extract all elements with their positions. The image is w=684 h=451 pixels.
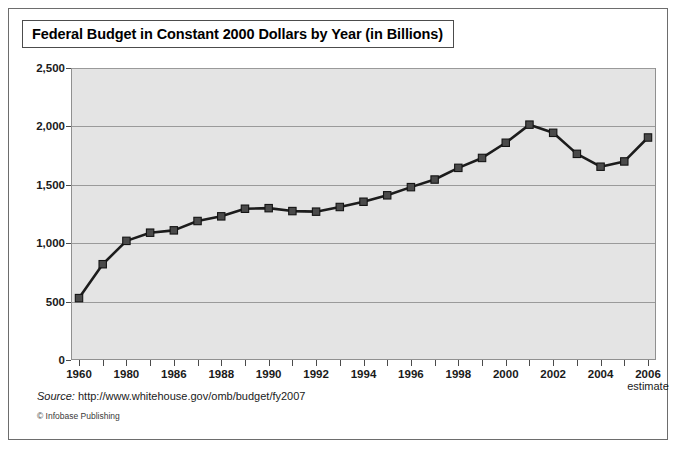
data-point-marker	[241, 205, 248, 212]
data-point-marker	[99, 261, 106, 268]
data-point-marker	[502, 139, 509, 146]
data-point-marker	[146, 229, 153, 236]
data-point-marker	[312, 208, 319, 215]
data-point-marker	[289, 207, 296, 214]
x-axis-estimate-note: estimate	[627, 380, 669, 392]
y-axis-tick-mark	[66, 243, 71, 244]
data-point-marker	[455, 164, 462, 171]
x-axis-tick-mark	[79, 360, 80, 366]
data-point-marker	[621, 158, 628, 165]
y-axis-tick-label: 1,000	[36, 237, 65, 249]
x-axis-tick-label: 2002	[540, 368, 566, 380]
x-axis-tick-mark	[458, 360, 459, 366]
x-axis-tick-mark	[364, 360, 365, 366]
x-axis-tick-mark	[126, 360, 127, 366]
line-series	[71, 68, 656, 360]
x-axis-tick-mark	[601, 360, 602, 366]
data-point-marker	[407, 183, 414, 190]
x-axis-tick-mark	[411, 360, 412, 366]
x-axis-tick-mark	[340, 360, 341, 366]
data-point-marker	[218, 213, 225, 220]
y-axis-tick-label: 2,500	[36, 62, 65, 74]
x-axis-tick-mark	[269, 360, 270, 366]
x-axis-tick-mark	[435, 360, 436, 366]
x-axis-tick-mark	[150, 360, 151, 366]
y-axis-tick-label: 2,000	[36, 120, 65, 132]
y-axis-tick-label: 500	[46, 296, 65, 308]
x-axis-tick-label: 1994	[351, 368, 377, 380]
x-axis-tick-mark	[174, 360, 175, 366]
x-axis-tick-mark	[292, 360, 293, 366]
data-point-marker	[644, 134, 651, 141]
data-point-marker	[573, 150, 580, 157]
x-axis-tick-mark	[506, 360, 507, 366]
copyright-note: © Infobase Publishing	[37, 411, 120, 421]
x-axis-tick-mark	[316, 360, 317, 366]
data-point-marker	[170, 227, 177, 234]
x-axis-tick-mark	[482, 360, 483, 366]
plot-wrapper: 05001,0001,5002,0002,5001960198019861988…	[9, 9, 669, 441]
source-label: Source:	[37, 390, 75, 402]
x-axis-tick-mark	[577, 360, 578, 366]
x-axis-tick-mark	[553, 360, 554, 366]
data-point-marker	[75, 294, 82, 301]
y-axis-tick-label: 0	[59, 354, 65, 366]
x-axis-tick-mark	[221, 360, 222, 366]
y-axis-tick-mark	[66, 302, 71, 303]
y-axis-tick-mark	[66, 185, 71, 186]
x-axis-tick-label: 1990	[256, 368, 282, 380]
x-axis-tick-label: 2004	[588, 368, 614, 380]
x-axis-tick-mark	[648, 360, 649, 366]
x-axis-tick-mark	[624, 360, 625, 366]
data-point-marker	[478, 154, 485, 161]
data-point-marker	[431, 176, 438, 183]
x-axis-tick-mark	[245, 360, 246, 366]
x-axis-tick-label: 1980	[114, 368, 140, 380]
data-point-marker	[360, 198, 367, 205]
data-point-marker	[194, 217, 201, 224]
x-axis-tick-mark	[529, 360, 530, 366]
x-axis-tick-mark	[387, 360, 388, 366]
y-axis-tick-label: 1,500	[36, 179, 65, 191]
data-point-marker	[526, 121, 533, 128]
y-axis-tick-mark	[66, 360, 71, 361]
data-point-marker	[597, 163, 604, 170]
data-point-marker	[336, 203, 343, 210]
data-point-marker	[265, 204, 272, 211]
x-axis-tick-label: 2006estimate	[627, 368, 669, 392]
source-url: http://www.whitehouse.gov/omb/budget/fy2…	[78, 390, 305, 402]
x-axis-tick-label: 2000	[493, 368, 519, 380]
x-axis-tick-label: 1996	[398, 368, 424, 380]
source-note: Source: http://www.whitehouse.gov/omb/bu…	[37, 390, 305, 402]
data-point-marker	[384, 192, 391, 199]
x-axis-tick-label: 1988	[208, 368, 234, 380]
x-axis-tick-label: 1986	[161, 368, 187, 380]
x-axis-tick-label: 1960	[66, 368, 92, 380]
x-axis-tick-mark	[198, 360, 199, 366]
data-point-marker	[123, 237, 130, 244]
series-line	[79, 125, 648, 298]
x-axis-tick-mark	[103, 360, 104, 366]
chart-figure: Federal Budget in Constant 2000 Dollars …	[8, 8, 668, 440]
x-axis-tick-label: 1998	[446, 368, 472, 380]
y-axis-tick-mark	[66, 126, 71, 127]
y-axis-tick-mark	[66, 68, 71, 69]
data-point-marker	[549, 129, 556, 136]
x-axis-tick-label: 1992	[303, 368, 329, 380]
